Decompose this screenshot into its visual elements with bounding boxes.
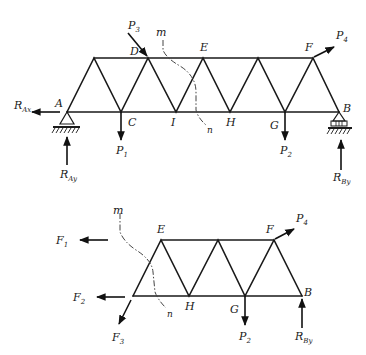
label-RAy: RAy	[59, 168, 78, 183]
label-P2-upper: P2	[279, 144, 292, 159]
node-label-A: A	[54, 97, 63, 110]
node-label-E-lower: E	[156, 223, 165, 236]
label-F2: F2	[72, 291, 86, 306]
force-arrow-P4-lower	[275, 229, 294, 239]
label-P1: P1	[115, 144, 128, 159]
node-label-B: B	[342, 102, 351, 115]
node-label-B-lower: B	[303, 286, 312, 299]
node-label-F-lower: F	[265, 223, 274, 236]
cut-label-m-lower: m	[113, 204, 123, 217]
truss-diagram: m n A C I H G B D E F	[0, 0, 366, 355]
node-label-G: G	[270, 119, 279, 132]
cut-label-m: m	[156, 26, 166, 39]
force-arrow-P4-upper	[314, 47, 334, 57]
roller-support-B	[327, 112, 352, 134]
node-label-I: I	[170, 116, 176, 129]
node-label-F: F	[304, 41, 313, 54]
label-P3: P3	[127, 19, 140, 34]
label-F1: F1	[55, 234, 68, 249]
label-RAx: RAx	[13, 99, 31, 114]
node-label-H-lower: H	[184, 300, 195, 313]
cut-label-n-lower: n	[167, 309, 173, 319]
web-members-cut	[133, 240, 302, 296]
force-arrow-F3	[119, 300, 131, 324]
label-P4-upper: P4	[335, 29, 348, 44]
node-label-G-lower: G	[230, 303, 239, 316]
cut-label-n: n	[207, 125, 213, 135]
node-label-D: D	[129, 45, 139, 58]
node-label-H: H	[225, 116, 236, 129]
label-RBy-lower: RBy	[294, 330, 313, 345]
lower-free-body: m n E F H G B F1 F2 F3 P2 P4 RBy	[55, 204, 313, 346]
pinned-support-A	[52, 112, 80, 133]
node-label-E: E	[199, 41, 208, 54]
web-members	[67, 58, 339, 112]
label-F3: F3	[111, 331, 125, 346]
label-RBy-upper: RBy	[332, 171, 351, 186]
node-label-C: C	[128, 116, 137, 129]
label-P4-lower: P4	[295, 212, 308, 227]
label-P2-lower: P2	[238, 330, 251, 345]
upper-truss: m n A C I H G B D E F	[13, 19, 352, 186]
